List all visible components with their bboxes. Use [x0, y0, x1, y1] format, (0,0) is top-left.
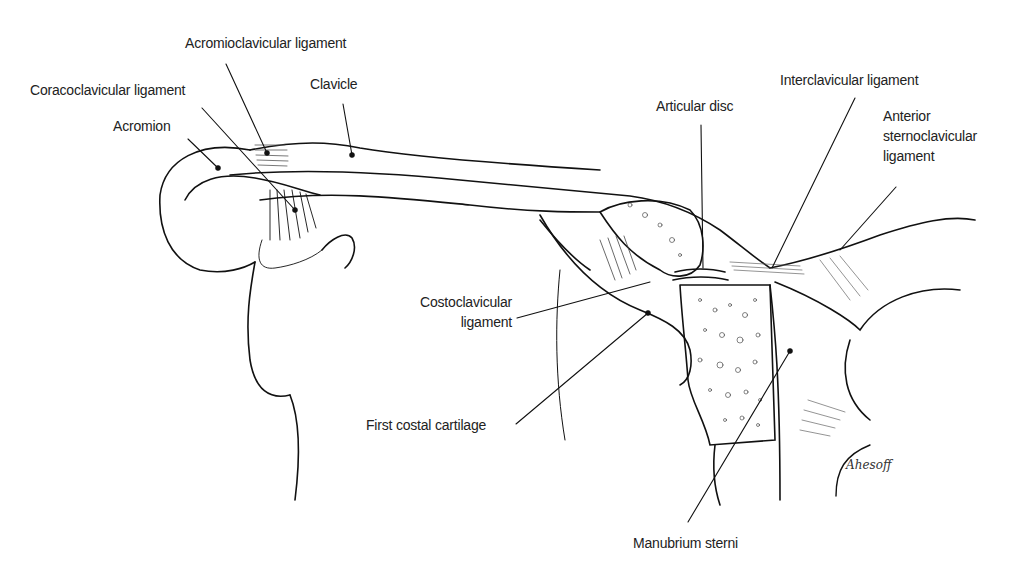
label-interclavicular-ligament: Interclavicular ligament	[780, 70, 918, 90]
label-line: Anterior	[883, 106, 977, 126]
label-clavicle: Clavicle	[310, 74, 357, 94]
coracoid-shape	[322, 235, 354, 268]
label-line: Costoclavicular	[400, 292, 512, 312]
clavicle-shape	[230, 171, 770, 276]
label-first-costal-cartilage: First costal cartilage	[366, 415, 486, 435]
label-line: sternoclavicular	[883, 126, 977, 146]
label-line: ligament	[400, 312, 512, 332]
label-costoclavicular-ligament: Costoclavicular ligament	[400, 292, 512, 332]
coracoclavicular-ligament-fibers	[259, 190, 322, 268]
label-line: ligament	[883, 146, 977, 166]
label-articular-disc: Articular disc	[656, 96, 733, 116]
leader-lines	[188, 64, 896, 522]
label-manubrium-sterni: Manubrium sterni	[633, 533, 738, 553]
costoclavicular-ligament-fibers	[600, 236, 636, 280]
manubrium-shape	[680, 285, 780, 505]
label-coracoclavicular-ligament: Coracoclavicular ligament	[30, 80, 185, 100]
artist-signature: Ahesoff	[846, 458, 891, 472]
first-rib-shape	[540, 215, 691, 440]
interclavicular-ligament-fibers	[730, 256, 868, 436]
contralateral-clavicle-shape	[770, 218, 975, 420]
articular-disc-shape	[673, 269, 728, 280]
label-acromioclavicular-ligament: Acromioclavicular ligament	[185, 33, 346, 53]
label-anterior-sternoclavicular-ligament: Anterior sternoclavicular ligament	[883, 106, 977, 166]
label-acromion: Acromion	[113, 116, 171, 136]
